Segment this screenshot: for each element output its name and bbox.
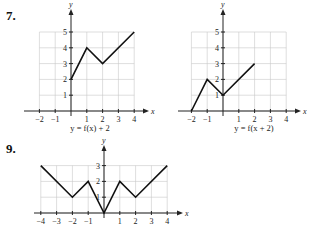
x-tick-label: −1 xyxy=(203,115,212,124)
grid xyxy=(39,32,134,111)
x-tick-label: 2 xyxy=(134,217,138,226)
figure-canvas: xy−2−11234123457.y = f(x) + 2xy−2−112341… xyxy=(0,0,313,232)
y-tick-label: 2 xyxy=(96,177,100,186)
graph-1: xy−2−11234123457.y = f(x) + 2 xyxy=(6,0,155,133)
y-axis-label: y xyxy=(101,136,106,145)
x-tick-label: −3 xyxy=(52,217,61,226)
x-tick-label: −1 xyxy=(84,217,93,226)
x-axis-label: x xyxy=(184,209,189,218)
x-tick-label: 3 xyxy=(116,115,120,124)
graph-3: xy−4−3−2−112341239. xyxy=(6,136,189,226)
y-tick-label: 2 xyxy=(215,75,219,84)
y-tick-label: 3 xyxy=(96,162,100,171)
x-axis-label: x xyxy=(302,107,307,116)
y-axis-arrow-icon xyxy=(69,9,74,15)
y-tick-label: 2 xyxy=(63,75,67,84)
y-tick-label: 5 xyxy=(215,28,219,37)
y-axis-arrow-icon xyxy=(102,145,107,151)
x-axis-label: x xyxy=(150,107,155,116)
y-tick-label: 4 xyxy=(63,44,67,53)
x-tick-label: −1 xyxy=(51,115,60,124)
y-tick-label: 4 xyxy=(215,44,219,53)
problem-number: 7. xyxy=(6,8,16,23)
y-tick-label: 1 xyxy=(63,91,67,100)
x-axis-arrow-icon xyxy=(177,211,183,216)
grid xyxy=(191,32,286,111)
y-tick-label: 1 xyxy=(215,91,219,100)
x-tick-label: 1 xyxy=(118,217,122,226)
graph-caption: y = f(x + 2) xyxy=(234,123,273,133)
y-axis-label: y xyxy=(220,0,225,9)
y-tick-label: 3 xyxy=(215,60,219,69)
x-tick-label: 4 xyxy=(165,217,169,226)
x-tick-label: −4 xyxy=(37,217,46,226)
x-tick-label: 4 xyxy=(132,115,136,124)
y-tick-label: 5 xyxy=(63,28,67,37)
x-tick-label: 3 xyxy=(149,217,153,226)
graph-2: xy−2−1123412345y = f(x + 2) xyxy=(178,0,307,133)
x-tick-label: 4 xyxy=(284,115,288,124)
x-tick-label: −2 xyxy=(187,115,196,124)
x-tick-label: −2 xyxy=(68,217,77,226)
x-axis-arrow-icon xyxy=(295,109,301,114)
x-tick-label: −2 xyxy=(35,115,44,124)
problem-number: 9. xyxy=(6,141,16,156)
graph-caption: y = f(x) + 2 xyxy=(70,123,109,133)
y-tick-label: 3 xyxy=(63,60,67,69)
y-axis-arrow-icon xyxy=(221,9,226,15)
x-axis-arrow-icon xyxy=(143,109,149,114)
y-axis-label: y xyxy=(68,0,73,9)
